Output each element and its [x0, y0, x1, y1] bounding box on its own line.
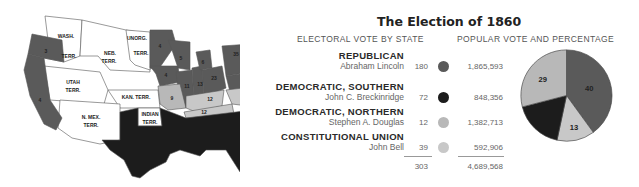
svg-text:TERR.: TERR.	[66, 87, 82, 93]
svg-text:INDIAN: INDIAN	[141, 111, 159, 117]
svg-text:13: 13	[197, 81, 203, 87]
legend-democratic-northern: DEMOCRATIC, NORTHERN Stephen A. Douglas	[275, 106, 404, 127]
popular-count: 1,865,593	[456, 62, 503, 71]
svg-text:4: 4	[39, 97, 42, 103]
electoral-count: 39	[410, 143, 428, 152]
electoral-total: 303	[410, 162, 428, 171]
svg-text:35: 35	[233, 51, 239, 57]
svg-text:11: 11	[184, 83, 190, 89]
svg-text:UTAH: UTAH	[66, 79, 80, 85]
party-name: CONSTITUTIONAL UNION	[281, 131, 404, 142]
legend-democratic-southern: DEMOCRATIC, SOUTHERN John C. Breckinridg…	[276, 81, 404, 102]
popular-vote-pie-chart: 40 29 13	[519, 48, 614, 143]
svg-text:4: 4	[159, 43, 162, 49]
svg-text:N. MEX.: N. MEX.	[82, 114, 101, 120]
svg-text:5: 5	[180, 55, 183, 61]
candidate-name: John C. Breckinridge	[276, 92, 404, 102]
us-map-graphic: WASH.TERR. NEB.TERR. UNORG.TERR. UTAHTER…	[0, 0, 240, 187]
svg-text:12: 12	[207, 96, 213, 102]
popular-count: 848,356	[456, 93, 503, 102]
svg-text:WASH.: WASH.	[58, 33, 75, 39]
svg-text:4: 4	[165, 72, 168, 78]
svg-text:TERR.: TERR.	[143, 119, 159, 125]
pie-label-bell: 13	[570, 123, 578, 132]
pie-label-douglas: 29	[539, 75, 547, 84]
northern-democrat-swatch-icon	[438, 117, 449, 128]
popular-total: 4,689,568	[456, 162, 503, 171]
svg-text:TERR.: TERR.	[134, 50, 150, 56]
svg-text:12: 12	[201, 109, 207, 115]
electoral-vote-heading: ELECTORAL VOTE BY STATE	[297, 34, 424, 44]
popular-count: 1,382,713	[456, 118, 503, 127]
electoral-count: 12	[410, 118, 428, 127]
electoral-map: WASH.TERR. NEB.TERR. UNORG.TERR. UTAHTER…	[0, 0, 240, 187]
party-name: DEMOCRATIC, SOUTHERN	[276, 81, 404, 92]
svg-text:6: 6	[202, 59, 205, 65]
candidate-name: Abraham Lincoln	[339, 61, 404, 71]
svg-text:9: 9	[171, 95, 174, 101]
popular-count: 592,906	[456, 143, 503, 152]
legend-constitutional-union: CONSTITUTIONAL UNION John Bell	[281, 131, 404, 152]
popular-vote-heading: POPULAR VOTE AND PERCENTAGE	[457, 34, 614, 44]
candidate-name: John Bell	[281, 142, 404, 152]
popular-total-rule	[458, 156, 504, 157]
svg-text:23: 23	[211, 75, 217, 81]
svg-text:UNORG.: UNORG.	[127, 35, 148, 41]
republican-swatch-icon	[438, 61, 449, 72]
electoral-count: 72	[410, 93, 428, 102]
svg-text:3: 3	[45, 48, 48, 54]
svg-text:NEB.: NEB.	[104, 50, 117, 56]
svg-text:TERR.: TERR.	[84, 122, 100, 128]
electoral-total-rule	[404, 156, 432, 157]
constitutional-union-swatch-icon	[438, 142, 449, 153]
party-name: DEMOCRATIC, NORTHERN	[275, 106, 404, 117]
candidate-name: Stephen A. Douglas	[275, 117, 404, 127]
svg-text:KAN. TERR.: KAN. TERR.	[122, 94, 151, 100]
electoral-count: 180	[410, 62, 428, 71]
southern-democrat-swatch-icon	[438, 92, 449, 103]
party-name: REPUBLICAN	[339, 50, 404, 61]
pie-label-republican: 40	[585, 84, 593, 93]
legend-republican: REPUBLICAN Abraham Lincoln	[339, 50, 404, 71]
svg-text:TERR.: TERR.	[62, 53, 78, 59]
chart-title: The Election of 1860	[377, 14, 521, 29]
svg-text:TERR.: TERR.	[102, 58, 118, 64]
